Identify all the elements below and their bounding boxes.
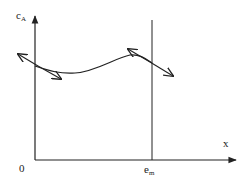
origin-label: 0 — [19, 162, 25, 174]
concentration-profile-diagram: cA x 0 em — [0, 0, 243, 183]
y-axis-label: cA — [16, 9, 26, 23]
right-tangent-arrow-lower — [150, 62, 173, 76]
concentration-curve — [35, 55, 152, 73]
x-axis-label: x — [223, 137, 229, 149]
em-label: em — [144, 163, 155, 177]
